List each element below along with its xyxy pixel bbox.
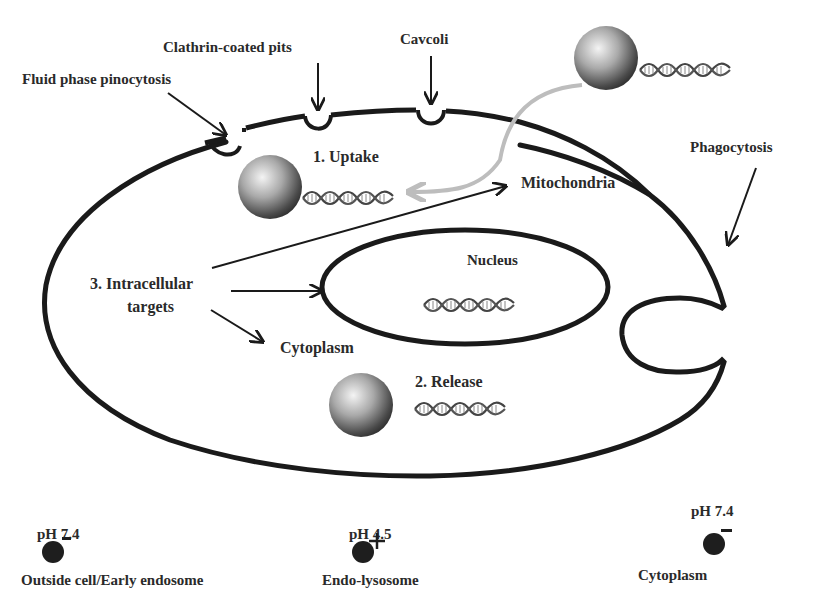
ph-legend-item-outside: pH 7.4 Outside cell/Early endosome — [21, 526, 204, 588]
arrow-to-cytoplasm — [211, 310, 263, 342]
ph-value: pH 7.4 — [691, 503, 734, 519]
ph-legend-item-endolysosome: pH 4.5 Endo-lysosome — [322, 526, 419, 588]
arrow-fluid-phase — [168, 93, 226, 135]
targets-label-line1: 3. Intracellular — [90, 275, 193, 292]
dna-uptake-icon — [303, 192, 393, 204]
ph-legend-item-cytoplasm: pH 7.4 Cytoplasm — [638, 503, 734, 583]
arrow-phagocytosis — [728, 168, 756, 245]
negative-charge-icon — [721, 529, 732, 532]
targets-label-line2: targets — [127, 298, 174, 316]
nucleus-shape — [322, 230, 608, 344]
negative-charge-icon — [62, 537, 71, 540]
label-nucleus: Nucleus — [467, 252, 518, 268]
label-caveoli: Cavcoli — [400, 31, 448, 47]
step-release-label: 2. Release — [415, 373, 483, 390]
label-fluid-phase-pinocytosis: Fluid phase pinocytosis — [22, 71, 171, 87]
charge-particle-icon — [352, 541, 374, 563]
label-mitochondria: Mitochondria — [521, 174, 615, 191]
cell-uptake-diagram: Fluid phase pinocytosis Clathrin-coated … — [0, 0, 815, 615]
nanoparticle-outside — [574, 26, 638, 90]
dna-release-icon — [415, 403, 505, 415]
ph-value: pH 4.5 — [349, 526, 392, 542]
step-uptake-label: 1. Uptake — [313, 148, 379, 166]
label-cytoplasm-in-cell: Cytoplasm — [280, 339, 354, 357]
dna-outside-icon — [640, 64, 730, 76]
label-phagocytosis: Phagocytosis — [690, 139, 773, 155]
charge-particle-icon — [42, 541, 64, 563]
ph-location: Endo-lysosome — [322, 572, 419, 588]
nanoparticle-release — [329, 373, 393, 437]
ph-location: Outside cell/Early endosome — [21, 572, 204, 588]
ph-value: pH 7.4 — [37, 526, 80, 542]
charge-particle-icon — [703, 533, 725, 555]
ph-legend: pH 7.4 Outside cell/Early endosome pH 4.… — [21, 503, 734, 588]
ph-location: Cytoplasm — [638, 567, 708, 583]
dna-nucleus-icon — [424, 299, 514, 311]
nanoparticle-uptake — [238, 155, 302, 219]
label-clathrin-coated-pits: Clathrin-coated pits — [163, 39, 292, 55]
